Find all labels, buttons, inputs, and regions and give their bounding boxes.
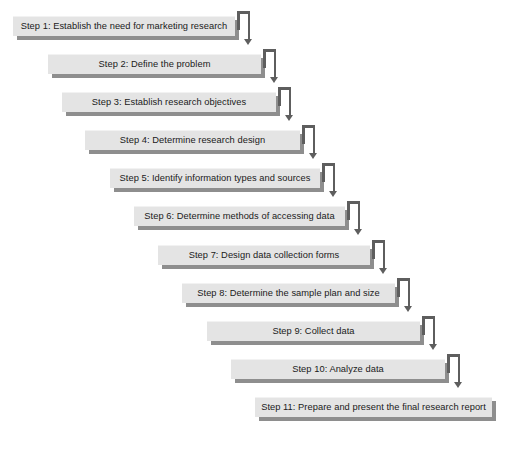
step-box-shadow-2 <box>52 74 265 78</box>
step-box-shadow-8 <box>186 303 399 307</box>
connector-vertical-down-2 <box>274 49 277 77</box>
connector-arrowhead-icon-5 <box>329 191 337 197</box>
connector-arrowhead-icon-1 <box>244 39 252 45</box>
step-box-4[interactable]: Step 4: Determine research design <box>85 130 300 150</box>
connector-vertical-down-9 <box>433 316 436 344</box>
step-box-10[interactable]: Step 10: Analyze data <box>231 359 445 379</box>
connector-vertical-down-7 <box>383 240 386 268</box>
connector-arrowhead-icon-3 <box>285 115 293 121</box>
step-box-shadow-5 <box>114 188 324 192</box>
connector-vertical-up-3 <box>278 87 281 106</box>
connector-arrowhead-icon-2 <box>270 77 278 83</box>
step-box-9[interactable]: Step 9: Collect data <box>207 321 420 341</box>
step-box-6[interactable]: Step 6: Determine methods of accessing d… <box>134 206 345 226</box>
step-box-5[interactable]: Step 5: Identify information types and s… <box>110 168 320 188</box>
step-label-11: Step 11: Prepare and present the final r… <box>254 403 493 412</box>
connector-arrowhead-icon-6 <box>354 229 362 235</box>
connector-vertical-up-10 <box>447 354 450 373</box>
connector-vertical-down-1 <box>248 11 251 39</box>
step-label-5: Step 5: Identify information types and s… <box>113 174 318 183</box>
connector-vertical-down-6 <box>358 201 361 229</box>
step-box-3[interactable]: Step 3: Establish research objectives <box>62 92 276 112</box>
step-label-7: Step 7: Design data collection forms <box>182 251 347 260</box>
connector-vertical-down-10 <box>458 354 461 382</box>
connector-vertical-up-9 <box>422 316 425 335</box>
step-label-8: Step 8: Determine the sample plan and si… <box>190 289 386 298</box>
connector-vertical-down-4 <box>313 125 316 153</box>
step-label-10: Step 10: Analyze data <box>285 365 391 374</box>
marketing-research-process-flowchart: Step 1: Establish the need for marketing… <box>0 0 510 453</box>
connector-vertical-up-7 <box>372 240 375 259</box>
connector-vertical-up-6 <box>347 201 350 220</box>
connector-vertical-up-1 <box>237 11 240 30</box>
connector-vertical-down-3 <box>289 87 292 115</box>
step-box-1[interactable]: Step 1: Establish the need for marketing… <box>13 16 235 36</box>
step-label-3: Step 3: Establish research objectives <box>85 98 253 107</box>
step-label-1: Step 1: Establish the need for marketing… <box>14 22 235 31</box>
connector-arrowhead-icon-4 <box>309 153 317 159</box>
step-box-shadow-10 <box>235 379 449 383</box>
connector-arrowhead-icon-8 <box>404 306 412 312</box>
step-box-8[interactable]: Step 8: Determine the sample plan and si… <box>182 283 395 303</box>
step-label-2: Step 2: Define the problem <box>92 60 218 69</box>
step-box-shadow-9 <box>211 341 424 345</box>
step-label-6: Step 6: Determine methods of accessing d… <box>137 212 341 221</box>
connector-vertical-up-4 <box>302 125 305 144</box>
step-box-2[interactable]: Step 2: Define the problem <box>48 54 261 74</box>
step-box-shadow-4 <box>89 150 304 154</box>
step-box-11[interactable]: Step 11: Prepare and present the final r… <box>255 397 492 417</box>
step-label-9: Step 9: Collect data <box>265 327 361 336</box>
step-box-shadow-7 <box>162 265 374 269</box>
connector-arrowhead-icon-7 <box>379 268 387 274</box>
step-box-shadow-3 <box>66 112 280 116</box>
connector-vertical-up-8 <box>397 278 400 297</box>
connector-vertical-up-5 <box>322 163 325 182</box>
step-box-7[interactable]: Step 7: Design data collection forms <box>158 245 370 265</box>
connector-vertical-down-8 <box>408 278 411 306</box>
step-box-shadow-11 <box>259 417 496 421</box>
step-box-shadow-6 <box>138 226 349 230</box>
step-label-4: Step 4: Determine research design <box>113 136 272 145</box>
connector-vertical-up-2 <box>263 49 266 68</box>
connector-arrowhead-icon-10 <box>454 382 462 388</box>
connector-vertical-down-5 <box>333 163 336 191</box>
step-box-shadow-1 <box>17 36 239 40</box>
connector-arrowhead-icon-9 <box>429 344 437 350</box>
